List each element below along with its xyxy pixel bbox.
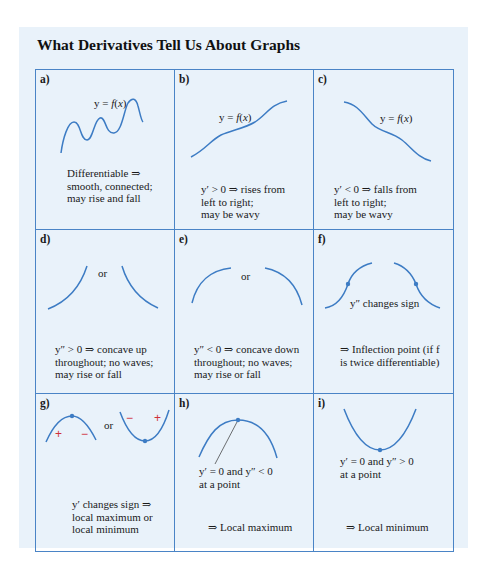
cell-c-decreasing: c) y = f(x) y′ < 0 ⇒ falls fromleft to r… [314, 70, 455, 230]
inflection-point [414, 282, 418, 286]
local-min-curve [344, 409, 416, 450]
concave-up-rising-curve [48, 266, 87, 309]
increasing-curve [191, 101, 287, 157]
minus-sign: − [81, 427, 88, 441]
graph-label: y′ = 0 and y″ < 0at a point [199, 465, 273, 490]
concave-down-rising-curve [192, 268, 231, 303]
concave-up-falling-curve [122, 266, 158, 308]
min-point [378, 448, 382, 452]
min-point [143, 439, 147, 443]
cell-a-differentiable: a) y = f(x) Differentiable ⇒smooth, conn… [36, 70, 175, 230]
plus-sign: + [55, 427, 62, 441]
pointer-line [215, 422, 237, 464]
cell-caption: ⇒ Local minimum [346, 521, 429, 534]
graph-label: y″ changes sign [350, 297, 419, 310]
cell-caption: y″ < 0 ⇒ concave downthroughout; no wave… [194, 343, 299, 381]
max-point [236, 418, 240, 422]
cell-caption: y′ < 0 ⇒ falls fromleft to right;may be … [334, 183, 417, 221]
cell-i-local-minimum: i) y′ = 0 and y″ > 0at a point ⇒ Local m… [314, 394, 455, 553]
or-text: or [241, 270, 250, 283]
max-point [70, 414, 74, 418]
concave-down-falling-curve [265, 268, 302, 305]
cell-b-increasing: b) y = f(x) y′ > 0 ⇒ rises fromleft to r… [175, 70, 314, 230]
cell-caption: Differentiable ⇒smooth, connected;may ri… [67, 167, 153, 205]
panel-title: What Derivatives Tell Us About Graphs [37, 36, 300, 54]
local-max-curve [199, 420, 277, 458]
cell-caption: y′ changes sign ⇒local maximum orlocal m… [72, 498, 153, 536]
cell-f-inflection: f) y″ changes sign ⇒ Inflection point (i… [314, 230, 455, 394]
inflection-graph [314, 230, 455, 394]
svg-text:y = f(x): y = f(x) [380, 112, 413, 125]
cell-caption: ⇒ Inflection point (if fis twice differe… [340, 343, 440, 368]
graph-label: y′ = 0 and y″ > 0at a point [340, 455, 414, 480]
graph-label: y = f(x) [94, 97, 127, 110]
inflection-point [346, 282, 350, 286]
cell-d-concave-up: d) or y″ > 0 ⇒ concave upthroughout; no … [36, 230, 175, 394]
cell-g-sign-change: g) + − − + or y′ changes sign ⇒local max… [36, 394, 175, 553]
cell-caption: y″ > 0 ⇒ concave upthroughout; no waves;… [55, 343, 153, 381]
cell-h-local-maximum: h) y′ = 0 and y″ < 0at a point ⇒ Local m… [175, 394, 314, 553]
local-max-curve [46, 416, 96, 442]
or-text: or [104, 419, 113, 432]
or-text: or [98, 267, 107, 280]
cell-caption: y′ > 0 ⇒ rises fromleft to right;may be … [201, 183, 285, 221]
wavy-curve-graph: y = f(x) [36, 70, 175, 230]
derivative-grid: a) y = f(x) Differentiable ⇒smooth, conn… [35, 69, 454, 552]
cell-caption: ⇒ Local maximum [208, 521, 292, 534]
svg-text:y = f(x): y = f(x) [219, 111, 252, 124]
decreasing-curve [344, 102, 431, 161]
cell-e-concave-down: e) or y″ < 0 ⇒ concave downthroughout; n… [175, 230, 314, 394]
plus-sign: + [154, 411, 161, 425]
minus-sign: − [126, 411, 133, 425]
